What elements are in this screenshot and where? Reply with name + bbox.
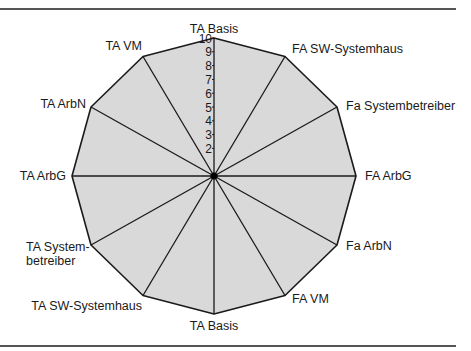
scale-tick-label: 3 bbox=[205, 128, 212, 142]
axis-label: TA Basis bbox=[190, 22, 238, 36]
axis-label: TA SW-Systemhaus bbox=[31, 299, 142, 313]
radar-chart: 2345678910 TA BasisFA SW-SystemhausFa Sy… bbox=[0, 0, 471, 351]
scale-tick-label: 2 bbox=[205, 142, 212, 156]
axis-label: Fa ArbN bbox=[346, 239, 392, 253]
axis-label: TA ArbG bbox=[20, 169, 66, 183]
scale-tick-label: 9 bbox=[205, 45, 212, 59]
scale-tick-label: 7 bbox=[205, 73, 212, 87]
scale-tick-label: 4 bbox=[205, 114, 212, 128]
axis-label: Fa Systembetreiber bbox=[346, 99, 455, 113]
axis-label: TA Basis bbox=[190, 319, 238, 333]
axis-label: TA VM bbox=[105, 39, 142, 53]
axis-label: FA SW-Systemhaus bbox=[292, 42, 403, 56]
axis-label: TA System-betreiber bbox=[26, 240, 90, 268]
axis-label: FA VM bbox=[292, 292, 329, 306]
scale-tick-label: 5 bbox=[205, 101, 212, 115]
scale-tick-label: 8 bbox=[205, 59, 212, 73]
scale-tick-label: 6 bbox=[205, 87, 212, 101]
axis-label: FA ArbG bbox=[365, 169, 412, 183]
center-dot bbox=[211, 173, 218, 180]
axis-label: TA ArbN bbox=[40, 97, 86, 111]
